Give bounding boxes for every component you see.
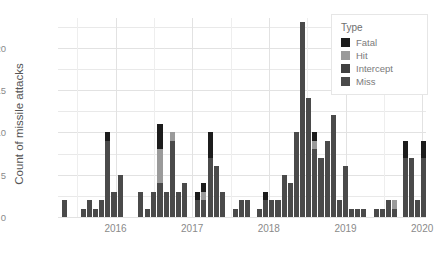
bar: [105, 132, 110, 217]
y-tick-label: 5: [0, 169, 6, 180]
bar: [164, 192, 169, 217]
bar-segment-fatal: [421, 141, 426, 158]
bar-segment-miss: [275, 200, 280, 217]
bar: [343, 166, 348, 217]
bar: [111, 192, 116, 217]
bar-segment-fatal: [312, 132, 317, 140]
y-tick-label: 15: [0, 85, 6, 96]
missile-attacks-bar-chart: Count of missile attacks 05101520 201620…: [0, 0, 438, 256]
bar: [306, 98, 311, 217]
bar-segment-miss: [176, 192, 181, 217]
bar-segment-miss: [62, 200, 67, 217]
bar: [195, 192, 200, 217]
bar-segment-miss: [233, 209, 238, 217]
bar-segment-miss: [182, 183, 187, 217]
bar-segment-fatal: [201, 183, 206, 191]
bar: [157, 124, 162, 217]
bar-segment-miss: [245, 200, 250, 217]
bar-segment-fatal: [195, 192, 200, 200]
bar: [151, 192, 156, 217]
bar-segment-miss: [312, 149, 317, 217]
legend-item-hit[interactable]: Hit: [341, 51, 419, 60]
bar: [81, 209, 86, 218]
bar-segment-miss: [355, 209, 360, 217]
bar: [312, 132, 317, 217]
bar-segment-hit: [392, 200, 397, 208]
bar: [374, 209, 379, 218]
bar-segment-miss: [111, 192, 116, 217]
bar: [176, 192, 181, 217]
bar-segment-hit: [170, 132, 175, 140]
legend-item-miss[interactable]: Miss: [341, 77, 419, 86]
bar-segment-miss: [118, 175, 123, 217]
bar-segment-miss: [343, 166, 348, 217]
legend-item-label: Fatal: [356, 38, 377, 47]
bar: [282, 175, 287, 217]
x-tick-label: 2019: [334, 223, 356, 234]
bar-segment-miss: [220, 192, 225, 217]
bar-segment-fatal: [403, 141, 408, 158]
legend-item-fatal[interactable]: Fatal: [341, 38, 419, 47]
bar: [239, 200, 244, 217]
bar: [99, 200, 104, 217]
x-tick-label: 2018: [258, 223, 280, 234]
bar-segment-miss: [93, 209, 98, 217]
bar-segment-fatal: [208, 132, 213, 157]
bar: [337, 200, 342, 217]
bar: [288, 183, 293, 217]
bar-segment-miss: [421, 158, 426, 217]
bar: [170, 132, 175, 217]
legend-swatch-icon: [341, 64, 350, 73]
bar-segment-miss: [392, 209, 397, 217]
bar: [275, 200, 280, 217]
bar: [214, 166, 219, 217]
bar-segment-miss: [269, 200, 274, 217]
legend-title: Type: [341, 22, 419, 33]
bar: [415, 200, 420, 217]
bar: [355, 209, 360, 218]
bar: [182, 183, 187, 217]
bar-segment-miss: [386, 200, 391, 217]
bar-segment-miss: [374, 209, 379, 217]
bar-segment-miss: [170, 141, 175, 217]
bar: [380, 209, 385, 218]
bar: [220, 192, 225, 217]
bar-segment-miss: [349, 209, 354, 217]
legend-item-intercept[interactable]: Intercept: [341, 64, 419, 73]
bar: [118, 175, 123, 217]
bar-segment-fatal: [263, 192, 268, 200]
bar-segment-miss: [81, 209, 86, 217]
bar: [269, 200, 274, 217]
x-tick-label: 2017: [181, 223, 203, 234]
bar-segment-miss: [145, 209, 150, 217]
bar-segment-miss: [214, 166, 219, 217]
bar: [325, 141, 330, 217]
bar-segment-miss: [201, 200, 206, 217]
bar-segment-miss: [415, 200, 420, 217]
y-tick-label: 20: [0, 42, 6, 53]
bar-segment-miss: [239, 200, 244, 217]
y-tick-label: 10: [0, 127, 6, 138]
bar: [318, 158, 323, 217]
bar-segment-miss: [157, 183, 162, 217]
bar-segment-miss: [87, 200, 92, 217]
bar: [245, 200, 250, 217]
bar: [403, 141, 408, 217]
bar-segment-miss: [306, 98, 311, 217]
legend-items: FatalHitInterceptMiss: [341, 38, 419, 86]
bar: [233, 209, 238, 218]
bar: [331, 115, 336, 217]
bar: [62, 200, 67, 217]
bar: [208, 132, 213, 217]
bar: [421, 141, 426, 217]
bar: [349, 209, 354, 218]
bar-segment-hit: [201, 192, 206, 200]
bar-segment-hit: [312, 141, 317, 149]
bar-segment-miss: [282, 175, 287, 217]
bar-segment-miss: [337, 200, 342, 217]
bar-segment-miss: [257, 209, 262, 217]
legend-swatch-icon: [341, 51, 350, 60]
bar-segment-miss: [164, 192, 169, 217]
bar: [201, 183, 206, 217]
bar-segment-miss: [403, 158, 408, 217]
